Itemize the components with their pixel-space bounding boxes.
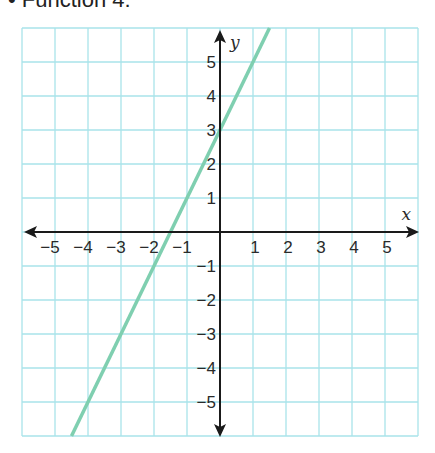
y-tick-label: 2	[207, 155, 216, 174]
x-tick-label: 2	[283, 238, 292, 257]
y-tick-label: 5	[207, 53, 216, 72]
y-tick-label: −3	[197, 325, 216, 344]
y-tick-label: 3	[207, 121, 216, 140]
y-tick-label: 4	[207, 87, 216, 106]
y-tick-label: −5	[197, 393, 216, 412]
x-tick-label: −2	[139, 238, 158, 257]
y-axis-label: y	[229, 32, 240, 52]
x-tick-label: −3	[106, 238, 125, 257]
x-axis-label: x	[402, 204, 412, 224]
x-tick-label: 1	[250, 238, 259, 257]
x-tick-label: 4	[349, 238, 358, 257]
x-tick-label: 3	[316, 238, 325, 257]
axes	[24, 30, 419, 437]
x-tick-label: −4	[73, 238, 92, 257]
coordinate-plane: −5−4−3−2−11234554321−1−2−3−4−5 x y	[0, 0, 435, 453]
x-tick-label: −1	[172, 238, 191, 257]
y-tick-label: 1	[207, 189, 216, 208]
x-tick-label: −5	[40, 238, 59, 257]
y-tick-label: −1	[197, 257, 216, 276]
y-tick-label: −2	[197, 291, 216, 310]
x-tick-label: 5	[382, 238, 391, 257]
y-tick-label: −4	[197, 359, 216, 378]
